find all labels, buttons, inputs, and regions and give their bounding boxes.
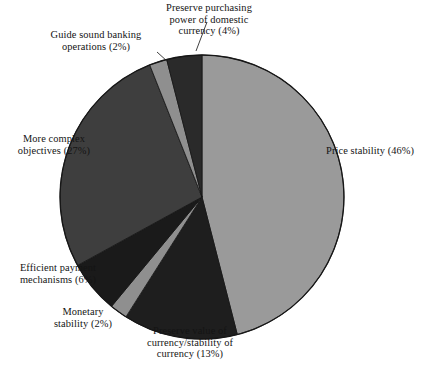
slice-label-efficient-payment-mechanisms: Efficient payment mechanisms (6%) [2,262,114,285]
slice-label-guide-sound-banking-operations: Guide sound banking operations (2%) [32,29,160,52]
pie-chart-figure: Preserve purchasing power of domestic cu… [0,0,428,374]
slice-label-monetary-stability: Monetary stability (2%) [36,306,130,329]
slice-label-preserve-purchasing-power: Preserve purchasing power of domestic cu… [146,2,272,37]
slice-label-more-complex-objectives: More complex objectives (27%) [2,133,106,156]
slice-label-preserve-value-of-currency: Preserve value of currency/stability of … [126,325,254,360]
slice-label-price-stability: Price stability (46%) [326,145,428,157]
pie-slices-group [60,55,344,339]
